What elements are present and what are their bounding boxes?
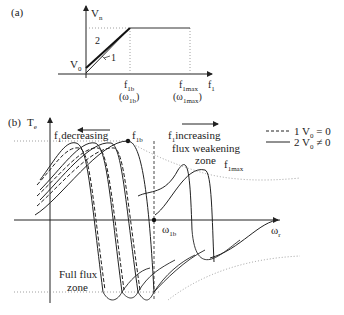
panel-a: (a) Vn 2 1 V0 f1b (ω1b) f1max (ω1max) f1: [11, 6, 215, 105]
min-torque-envelope: [168, 256, 300, 300]
te-axis-label: Te: [27, 116, 37, 131]
flux-weakening-label: flux weakening: [172, 142, 241, 154]
f1b-point-label: f1b: [132, 129, 143, 144]
figure-canvas: (a) Vn 2 1 V0 f1b (ω1b) f1max (ω1max) f1…: [0, 0, 344, 315]
f1-decreasing-label: f1decreasing: [54, 129, 109, 144]
v0-label: V0: [70, 58, 82, 73]
omega1b-axis-label: ω1b: [162, 223, 177, 238]
zone-label: zone: [195, 154, 216, 166]
full-flux-zone-label: zone: [67, 281, 88, 293]
panel-b: (b) Te ωr: [8, 116, 331, 303]
omega1max-label: (ω1max): [173, 91, 202, 105]
legend-item-2: 2 V0 ≠ 0: [294, 136, 331, 151]
omega-r-label: ωr: [271, 224, 281, 239]
f1max-curve-label: f1max: [224, 158, 244, 173]
omega1b-point: [152, 218, 156, 222]
panel-b-label: (b): [8, 116, 21, 129]
curve-2-label: 2: [95, 35, 100, 46]
f1-axis-label: f1: [208, 79, 215, 93]
full-flux-label: Full flux: [59, 268, 98, 280]
vn-axis-label: Vn: [91, 7, 103, 22]
curve-2: [86, 28, 130, 68]
panel-a-label: (a): [11, 6, 24, 19]
valley-curves: [103, 230, 240, 300]
curve-1-label: 1: [111, 52, 116, 63]
legend: 1 V0 = 0 2 V0 ≠ 0: [266, 125, 331, 151]
omega1b-label: (ω1b): [119, 91, 139, 105]
